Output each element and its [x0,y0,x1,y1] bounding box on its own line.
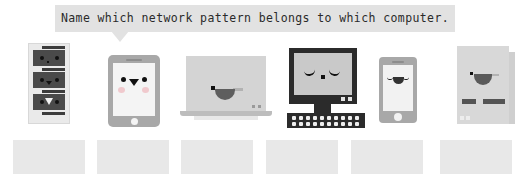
eye-left-icon [40,78,44,82]
keyboard-key [327,116,331,120]
notebook-key-bar [483,99,505,104]
status-led-icon [341,97,345,101]
laptop-shadow [194,116,258,120]
keyboard-key [341,122,345,126]
eye-left-icon [121,77,126,82]
eye-right-icon [142,77,147,82]
cheek-right-icon [142,87,149,93]
answer-box-1[interactable] [13,140,85,174]
answer-box-2[interactable] [97,140,169,174]
answer-box-3[interactable] [181,140,253,174]
monitor-stand [314,104,331,113]
device-desktop[interactable] [287,48,365,128]
notebook-body [457,46,509,124]
keyboard-key [355,116,359,120]
eye-left-icon [40,100,44,104]
monitor-screen [294,53,352,95]
keyboard-key [313,122,317,126]
laptop-screen [186,56,266,111]
keyboard-key [292,116,296,120]
cheek-left-icon [118,87,125,93]
prompt-text: Name which network pattern belongs to wh… [61,13,449,25]
tower-slot [42,90,65,93]
tower-bay [33,72,65,88]
keyboard-key [299,122,303,126]
tower-slot [42,68,65,71]
notebook-foot [460,116,464,120]
notebook-side [509,52,515,124]
answer-box-5[interactable] [351,140,423,174]
keyboard-key [306,116,310,120]
notebook-foot [466,116,470,120]
keyboard-key [327,122,331,126]
status-led-icon [258,105,261,108]
eye-right-icon [55,56,59,60]
answer-boxes-row [0,140,527,176]
keyboard-key [334,122,338,126]
mouth-icon [129,79,139,86]
keyboard-key [348,122,352,126]
keyboard-key [292,122,296,126]
keyboard-key [355,122,359,126]
keyboard-key [341,116,345,120]
keyboard-key [299,116,303,120]
answer-box-6[interactable] [440,140,512,174]
mouth-icon [47,61,49,63]
device-smartphone[interactable] [379,57,417,123]
tower-bay [33,50,65,66]
status-led-icon [348,97,352,101]
device-server-tower[interactable] [28,43,70,124]
keyboard-key [320,122,324,126]
speaker-icon [392,61,404,63]
home-button[interactable] [394,113,402,121]
eye-left-icon [470,72,473,75]
keyboard-key [320,116,324,120]
eye-right-icon [55,78,59,82]
exercise-scene: Name which network pattern belongs to wh… [0,0,527,185]
status-led-icon [252,105,255,108]
eye-right-icon [55,100,59,104]
notebook-key-bar [462,99,476,104]
mouth-icon [45,98,53,105]
prompt-speech-bubble: Name which network pattern belongs to wh… [55,5,455,32]
device-notebook[interactable] [457,46,515,128]
keyboard-key [313,116,317,120]
keyboard-key [334,116,338,120]
nose-icon [321,75,325,79]
keyboard[interactable] [287,113,365,128]
eye-left-icon [40,56,44,60]
speaker-icon [126,59,142,61]
tower-slot [42,46,65,49]
keyboard-key [306,122,310,126]
speech-bubble-tail [111,31,129,42]
answer-box-4[interactable] [266,140,338,174]
tower-slot [42,112,65,115]
keyboard-key [348,116,352,120]
device-laptop[interactable] [180,56,272,126]
mouth-icon [46,81,52,85]
tower-bay [33,94,65,110]
phone-screen [383,65,413,111]
device-tablet[interactable] [108,55,160,127]
home-button[interactable] [131,118,138,125]
